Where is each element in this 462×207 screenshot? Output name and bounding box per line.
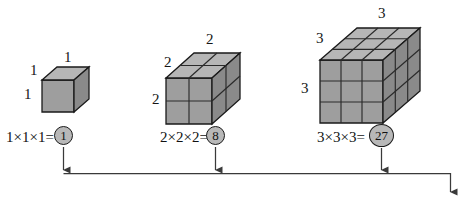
cube-numbers-diagram: 1 1 1 2 2 2 3 3 3 1×1×1= 1 2×2×2= 8 3×3×… xyxy=(0,0,462,207)
flow-rail-and-output-arrow xyxy=(64,174,451,193)
flow-arrows-layer xyxy=(0,0,462,207)
